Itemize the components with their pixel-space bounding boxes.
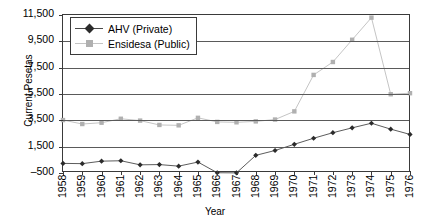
y-tick-label: 11,500 — [8, 7, 54, 19]
legend-item-ahv-private[interactable]: AHV (Private) — [75, 21, 190, 36]
x-tick-label: 1972 — [326, 158, 338, 198]
gridline — [63, 94, 409, 95]
legend-swatch-square-icon — [75, 38, 103, 49]
data-point-square — [331, 60, 335, 64]
x-tick-label: 1962 — [133, 158, 145, 198]
y-axis-tick — [59, 94, 63, 95]
y-tick-label: 7,500 — [8, 60, 54, 72]
y-axis-tick — [59, 147, 63, 148]
data-point-square — [292, 109, 296, 113]
data-point-square — [176, 123, 180, 127]
data-point-square — [311, 73, 315, 77]
x-tick-label: 1961 — [114, 158, 126, 198]
x-tick-label: 1958 — [56, 158, 68, 198]
x-tick-label: 1963 — [152, 158, 164, 198]
y-axis-tick-labels: 11,5009,5007,5005,5003,5001,500–500 — [8, 0, 54, 223]
x-tick-label: 1969 — [268, 158, 280, 198]
x-tick-label: 1971 — [307, 158, 319, 198]
data-point-square — [157, 123, 161, 127]
x-tick-label: 1965 — [191, 158, 203, 198]
data-point-diamond — [272, 148, 277, 153]
chart-legend: AHV (Private) Ensidesa (Public) — [70, 17, 197, 55]
data-point-diamond — [311, 136, 316, 141]
x-tick-label: 1966 — [210, 158, 222, 198]
x-tick-label: 1967 — [230, 158, 242, 198]
x-tick-label: 1968 — [249, 158, 261, 198]
y-axis-tick — [59, 68, 63, 69]
data-point-diamond — [407, 132, 412, 137]
y-tick-label: 1,500 — [8, 139, 54, 151]
x-tick-label: 1973 — [345, 158, 357, 198]
legend-label-ahv-private: AHV (Private) — [108, 23, 172, 35]
y-tick-label: 9,500 — [8, 33, 54, 45]
x-tick-label: 1974 — [364, 158, 376, 198]
data-point-diamond — [350, 125, 355, 130]
data-point-diamond — [330, 130, 335, 135]
gridline — [63, 68, 409, 69]
y-axis-tick — [59, 120, 63, 121]
y-axis-tick — [59, 41, 63, 42]
x-axis-title: Year — [0, 206, 430, 217]
x-tick-label: 1975 — [384, 158, 396, 198]
gridline — [63, 120, 409, 121]
chart-container: Current Pesetas 11,5009,5007,5005,5003,5… — [0, 0, 430, 223]
data-point-diamond — [369, 121, 374, 126]
x-tick-label: 1970 — [287, 158, 299, 198]
data-point-square — [80, 122, 84, 126]
y-axis-tick — [59, 15, 63, 16]
x-tick-label: 1976 — [403, 158, 415, 198]
x-tick-label: 1964 — [172, 158, 184, 198]
data-point-diamond — [388, 127, 393, 132]
x-tick-label: 1960 — [95, 158, 107, 198]
y-tick-label: –500 — [8, 165, 54, 177]
legend-label-ensidesa-public: Ensidesa (Public) — [108, 38, 190, 50]
x-tick-label: 1959 — [75, 158, 87, 198]
legend-item-ensidesa-public[interactable]: Ensidesa (Public) — [75, 36, 190, 51]
y-tick-label: 5,500 — [8, 86, 54, 98]
gridline — [63, 147, 409, 148]
y-tick-label: 3,500 — [8, 112, 54, 124]
legend-swatch-diamond-icon — [75, 23, 103, 34]
data-point-square — [369, 15, 373, 19]
